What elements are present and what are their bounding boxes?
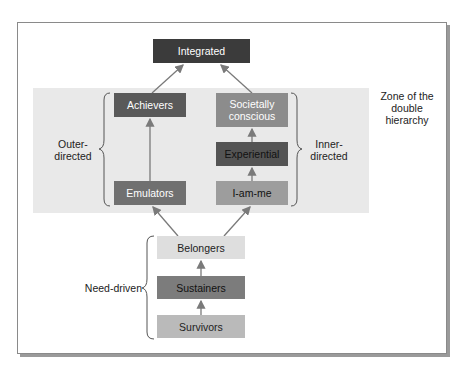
- node-achievers: Achievers: [114, 93, 186, 117]
- zone-line2: double: [372, 102, 442, 114]
- inner-directed-brace: [291, 93, 302, 206]
- zone-label: Zone of the double hierarchy: [372, 90, 442, 126]
- arrow-societally-integrated: [221, 65, 252, 93]
- node-sustainers: Sustainers: [157, 276, 245, 299]
- node-achievers-label: Achievers: [127, 99, 173, 111]
- node-survivors: Survivors: [157, 315, 245, 338]
- outer-directed-line1: Outer-: [48, 138, 98, 150]
- node-experiential: Experiential: [216, 142, 288, 166]
- node-societally-line2: conscious: [229, 110, 276, 122]
- need-driven-label: Need-driven: [72, 282, 142, 294]
- node-emulators: Emulators: [114, 181, 186, 205]
- node-belongers: Belongers: [157, 236, 245, 259]
- inner-directed-line1: Inner-: [304, 138, 354, 150]
- node-integrated: Integrated: [153, 39, 250, 63]
- node-i-am-me: I-am-me: [216, 181, 288, 205]
- node-integrated-label: Integrated: [178, 45, 225, 57]
- node-societally-conscious: Societally conscious: [216, 93, 288, 127]
- outer-directed-line2: directed: [48, 150, 98, 162]
- need-driven-text: Need-driven: [85, 282, 142, 294]
- node-i-am-me-label: I-am-me: [232, 187, 271, 199]
- arrow-achievers-integrated: [152, 65, 183, 93]
- inner-directed-line2: directed: [304, 150, 354, 162]
- arrow-belongers-iamme: [224, 207, 250, 236]
- outer-directed-label: Outer- directed: [48, 138, 98, 162]
- zone-line3: hierarchy: [372, 114, 442, 126]
- inner-directed-label: Inner- directed: [304, 138, 354, 162]
- node-sustainers-label: Sustainers: [176, 282, 226, 294]
- node-belongers-label: Belongers: [177, 242, 224, 254]
- node-survivors-label: Survivors: [179, 321, 223, 333]
- node-experiential-label: Experiential: [225, 148, 280, 160]
- arrow-belongers-emulators: [153, 207, 178, 236]
- need-driven-brace: [142, 236, 154, 339]
- node-societally-line1: Societally: [230, 98, 275, 110]
- zone-line1: Zone of the: [372, 90, 442, 102]
- outer-directed-brace: [99, 93, 110, 206]
- node-emulators-label: Emulators: [126, 187, 173, 199]
